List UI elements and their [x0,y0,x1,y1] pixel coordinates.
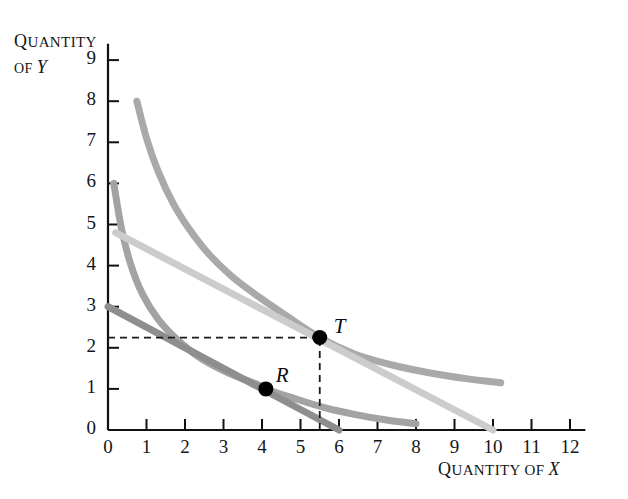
chart-series [108,101,501,430]
point-label-R: R [276,363,289,388]
y-tick-label: 3 [74,294,96,316]
x-tick-label: 10 [480,436,506,458]
x-tick-label: 4 [249,436,275,458]
data-points [258,330,327,396]
x-tick-label: 6 [326,436,352,458]
point-marker-T [312,330,327,345]
x-tick-label: 12 [557,436,583,458]
axes [108,44,585,430]
x-tick-label: 3 [211,436,237,458]
x-tick-label: 5 [288,436,314,458]
y-tick-label: 1 [74,376,96,398]
x-tick-label: 0 [95,436,121,458]
x-tick-label: 7 [365,436,391,458]
y-tick-label: 8 [74,88,96,110]
axis-ticks [108,60,570,430]
point-label-T: T [334,314,346,339]
x-tick-label: 1 [134,436,160,458]
y-tick-label: 7 [74,129,96,151]
y-tick-label: 5 [74,212,96,234]
y-tick-label: 4 [74,253,96,275]
x-tick-label: 9 [442,436,468,458]
y-tick-label: 0 [74,417,96,439]
y-tick-label: 6 [74,170,96,192]
indifference-curve-figure: QUANTITYOF Y QUANTITY OF X 0123456789012… [0,0,628,499]
x-tick-label: 2 [172,436,198,458]
point-marker-R [258,381,273,396]
x-tick-label: 8 [403,436,429,458]
y-tick-label: 2 [74,335,96,357]
x-tick-label: 11 [519,436,545,458]
y-tick-label: 9 [74,47,96,69]
